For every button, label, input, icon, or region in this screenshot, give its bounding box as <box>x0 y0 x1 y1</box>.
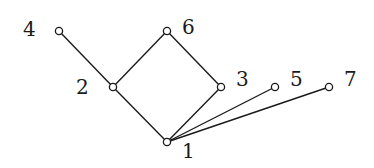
node-6 <box>163 27 170 34</box>
edges-group <box>59 31 329 142</box>
node-label-4: 4 <box>23 17 36 41</box>
node-4 <box>55 27 62 34</box>
labels-group: 1234567 <box>23 15 357 163</box>
node-label-1: 1 <box>182 139 195 163</box>
node-7 <box>325 83 332 90</box>
edge-2-6 <box>113 31 167 87</box>
edge-1-2 <box>113 87 167 142</box>
edge-1-3 <box>167 87 221 142</box>
node-label-7: 7 <box>344 67 357 91</box>
edge-3-6 <box>167 31 221 87</box>
hasse-diagram: 1234567 <box>0 0 374 168</box>
edge-1-5 <box>167 87 275 142</box>
node-label-6: 6 <box>182 15 195 39</box>
node-5 <box>271 83 278 90</box>
edge-1-7 <box>167 87 329 142</box>
node-2 <box>109 83 116 90</box>
node-label-3: 3 <box>236 67 249 91</box>
node-label-2: 2 <box>76 75 89 99</box>
node-1 <box>163 138 170 145</box>
node-label-5: 5 <box>290 67 303 91</box>
node-3 <box>217 83 224 90</box>
